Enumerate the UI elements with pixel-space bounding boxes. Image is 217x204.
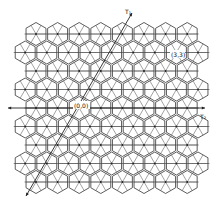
star-spoke bbox=[47, 127, 52, 136]
star-spoke bbox=[187, 145, 192, 154]
star-spoke bbox=[36, 99, 41, 108]
star-spoke bbox=[166, 25, 171, 34]
star-spoke bbox=[117, 34, 122, 43]
star-spoke bbox=[85, 127, 90, 136]
lattice-node bbox=[122, 181, 124, 183]
star-spoke bbox=[58, 71, 63, 80]
star-spoke bbox=[79, 108, 84, 117]
lattice-node bbox=[100, 144, 102, 146]
star-spoke bbox=[36, 182, 41, 191]
star-spoke bbox=[68, 164, 73, 173]
origin-label: (0,0) bbox=[74, 102, 88, 109]
star-spoke bbox=[122, 62, 127, 71]
star-spoke bbox=[68, 81, 73, 90]
star-spoke bbox=[171, 90, 176, 99]
star-spoke bbox=[96, 99, 101, 108]
star-spoke bbox=[25, 127, 30, 136]
star-spoke bbox=[187, 99, 192, 108]
star-spoke bbox=[101, 62, 106, 71]
star-spoke bbox=[42, 127, 47, 136]
star-spoke bbox=[144, 34, 149, 43]
star-spoke bbox=[144, 182, 149, 191]
star-spoke bbox=[53, 71, 58, 80]
star-spoke bbox=[117, 182, 122, 191]
star-spoke bbox=[20, 81, 25, 90]
star-spoke bbox=[20, 44, 25, 53]
star-spoke bbox=[122, 173, 127, 182]
star-spoke bbox=[122, 99, 127, 108]
lattice-node bbox=[24, 89, 26, 91]
star-spoke bbox=[166, 71, 171, 80]
star-spoke bbox=[122, 108, 127, 117]
star-spoke bbox=[63, 44, 68, 53]
star-spoke bbox=[90, 90, 95, 99]
star-spoke bbox=[117, 71, 122, 80]
star-spoke bbox=[58, 108, 63, 117]
star-spoke bbox=[128, 53, 133, 62]
star-spoke bbox=[187, 173, 192, 182]
star-spoke bbox=[96, 145, 101, 154]
star-spoke bbox=[53, 182, 58, 191]
star-spoke bbox=[58, 62, 63, 71]
star-spoke bbox=[63, 81, 68, 90]
star-spoke bbox=[139, 182, 144, 191]
star-spoke bbox=[112, 53, 117, 62]
star-spoke bbox=[193, 164, 198, 173]
star-spoke bbox=[74, 136, 79, 145]
star-spoke bbox=[193, 127, 198, 136]
star-spoke bbox=[58, 25, 63, 34]
lattice-node bbox=[143, 70, 145, 72]
star-spoke bbox=[101, 136, 106, 145]
lattice-node bbox=[176, 89, 178, 91]
lattice-node bbox=[111, 89, 113, 91]
star-spoke bbox=[42, 81, 47, 90]
star-spoke bbox=[198, 81, 203, 90]
star-spoke bbox=[31, 145, 36, 154]
star-spoke bbox=[166, 136, 171, 145]
star-spoke bbox=[133, 164, 138, 173]
lattice-node bbox=[24, 126, 26, 128]
star-spoke bbox=[101, 145, 106, 154]
star-spoke bbox=[96, 34, 101, 43]
star-spoke bbox=[133, 90, 138, 99]
lattice-node bbox=[154, 126, 156, 128]
star-spoke bbox=[53, 25, 58, 34]
star-spoke bbox=[144, 136, 149, 145]
star-spoke bbox=[128, 164, 133, 173]
star-spoke bbox=[171, 127, 176, 136]
star-spoke bbox=[20, 155, 25, 164]
star-spoke bbox=[133, 127, 138, 136]
star-spoke bbox=[161, 71, 166, 80]
star-spoke bbox=[193, 44, 198, 53]
lattice-node bbox=[57, 181, 59, 183]
lattice-node bbox=[46, 52, 48, 54]
star-spoke bbox=[90, 164, 95, 173]
star-spoke bbox=[63, 164, 68, 173]
star-spoke bbox=[96, 62, 101, 71]
lattice-node bbox=[122, 70, 124, 72]
lattice-node bbox=[197, 89, 199, 91]
star-spoke bbox=[31, 34, 36, 43]
star-spoke bbox=[171, 164, 176, 173]
star-spoke bbox=[96, 71, 101, 80]
star-spoke bbox=[166, 99, 171, 108]
star-spoke bbox=[144, 25, 149, 34]
lattice-node bbox=[111, 163, 113, 165]
star-spoke bbox=[74, 34, 79, 43]
star-spoke bbox=[25, 118, 30, 127]
star-spoke bbox=[112, 155, 117, 164]
lattice-node bbox=[57, 33, 59, 35]
star-spoke bbox=[90, 53, 95, 62]
star-spoke bbox=[107, 53, 112, 62]
star-spoke bbox=[155, 118, 160, 127]
star-spoke bbox=[53, 173, 58, 182]
star-spoke bbox=[36, 145, 41, 154]
star-spoke bbox=[187, 34, 192, 43]
star-spoke bbox=[176, 127, 181, 136]
lattice-node bbox=[89, 52, 91, 54]
lattice-node bbox=[122, 144, 124, 146]
star-spoke bbox=[25, 81, 30, 90]
star-spoke bbox=[139, 173, 144, 182]
star-spoke bbox=[122, 34, 127, 43]
star-spoke bbox=[74, 173, 79, 182]
